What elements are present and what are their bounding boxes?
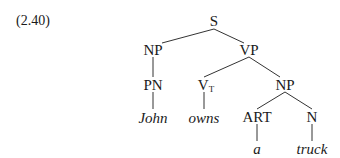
- edge-vp-vt: [204, 57, 249, 77]
- node-art: ART: [242, 110, 271, 125]
- node-vp: VP: [239, 43, 258, 58]
- word-owns: owns: [189, 111, 220, 126]
- node-n: N: [307, 110, 318, 125]
- node-vt: VT: [198, 78, 214, 97]
- node-np-object: NP: [275, 78, 294, 93]
- edge-np-art: [257, 92, 285, 109]
- node-vt-main: V: [198, 77, 209, 93]
- edge-vp-np: [249, 57, 280, 77]
- node-s: S: [210, 14, 218, 29]
- edge-np-n: [285, 92, 312, 109]
- word-truck: truck: [297, 142, 328, 157]
- node-vt-subscript: T: [209, 84, 215, 94]
- edge-s-vp: [214, 29, 244, 43]
- edge-s-np: [162, 29, 214, 43]
- node-np-subject: NP: [143, 43, 162, 58]
- node-pn: PN: [143, 78, 162, 93]
- word-john: John: [138, 111, 167, 126]
- word-a: a: [253, 142, 261, 157]
